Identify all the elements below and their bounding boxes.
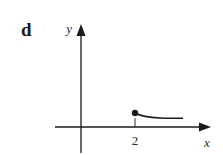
data-series-curve bbox=[132, 110, 183, 119]
x-tick-2: 2 bbox=[132, 118, 139, 148]
chart-plot: y x 2 bbox=[0, 0, 223, 155]
panel-label: d bbox=[21, 20, 32, 39]
closed-endpoint-dot bbox=[132, 110, 138, 116]
x-tick-label: 2 bbox=[132, 133, 139, 148]
chart-figure: d y x 2 bbox=[0, 0, 223, 155]
y-axis-label: y bbox=[64, 21, 72, 36]
y-axis-arrow-icon bbox=[77, 24, 86, 36]
x-axis-label: x bbox=[203, 135, 210, 150]
curve-line bbox=[135, 113, 183, 118]
x-axis-arrow-icon bbox=[199, 123, 211, 132]
y-axis: y bbox=[64, 21, 85, 153]
